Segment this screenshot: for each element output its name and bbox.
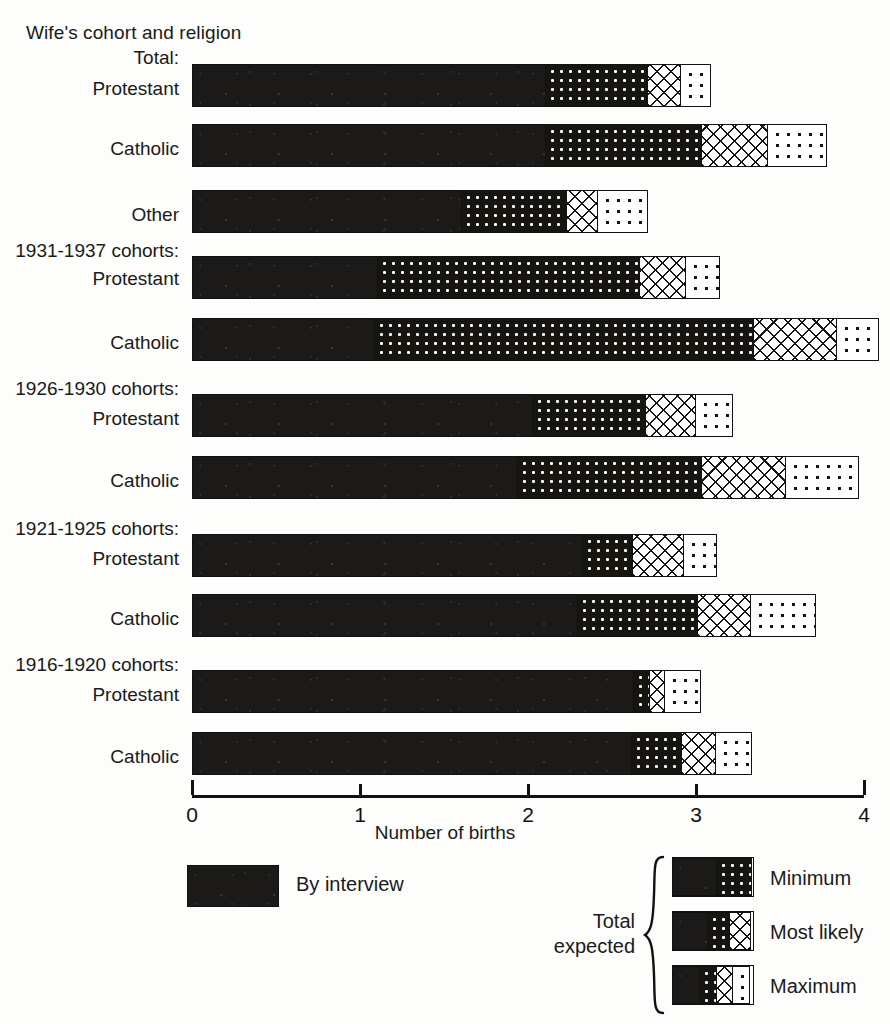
bar-segment-by-interview	[192, 534, 583, 577]
row-label-1931-1937-protestant: Protestant	[92, 268, 179, 290]
legend-label-most-likely: Most likely	[770, 921, 863, 944]
legend-seg-interview	[673, 966, 700, 1004]
bar-segment-maximum	[715, 732, 752, 775]
bar-segment-most-likely	[647, 64, 681, 107]
bar-segment-minimum	[545, 64, 647, 107]
group-caption-1921-1925: 1921-1925 cohorts:	[15, 518, 179, 540]
bar-row	[192, 594, 819, 637]
bar-segment-maximum	[680, 64, 712, 107]
row-label-1921-1925-protestant: Protestant	[92, 548, 179, 570]
x-axis-title: Number of births	[0, 822, 890, 844]
bar-segment-by-interview	[192, 394, 533, 437]
group-caption-1926-1930: 1926-1930 cohorts:	[15, 378, 179, 400]
row-label-1931-1937-catholic: Catholic	[110, 332, 179, 354]
legend-label-total-expected: Total expected	[525, 909, 635, 959]
legend-total-expected-line2: expected	[525, 934, 635, 959]
bar-row	[192, 190, 651, 233]
bar-segment-maximum	[695, 394, 734, 437]
bar-segment-maximum	[685, 256, 720, 299]
bar-row	[192, 64, 714, 107]
legend-seg-minimum	[699, 966, 717, 1004]
legend-seg-maximum	[732, 966, 750, 1004]
bar-segment-minimum	[545, 124, 701, 167]
bar-segment-maximum	[750, 594, 816, 637]
group-caption-1931-1937: 1931-1937 cohorts:	[15, 240, 179, 262]
bar-row	[192, 670, 704, 713]
bar-segment-most-likely	[681, 732, 716, 775]
legend-label-maximum: Maximum	[770, 975, 857, 998]
bar-segment-by-interview	[192, 64, 546, 107]
axis-line	[192, 795, 864, 798]
legend-seg-minimum	[707, 912, 729, 950]
bar-segment-maximum	[836, 318, 880, 361]
legend-label-minimum: Minimum	[770, 867, 851, 890]
bar-segment-minimum	[461, 190, 567, 233]
bar-segment-minimum	[633, 670, 650, 713]
axis-tick	[191, 780, 194, 795]
row-label-1926-1930-protestant: Protestant	[92, 408, 179, 430]
chart-root: Wife's cohort and religion Total: 1931-1…	[0, 0, 890, 1024]
bar-row	[192, 732, 755, 775]
x-axis: 01234	[192, 795, 864, 796]
group-caption-1916-1920: 1916-1920 cohorts:	[15, 654, 179, 676]
legend-seg-interview	[673, 858, 717, 896]
bar-segment-by-interview	[192, 124, 546, 167]
bar-segment-maximum	[785, 456, 859, 499]
legend-swatch-minimum	[672, 857, 754, 897]
legend-seg-minimum	[716, 858, 752, 896]
bar-segment-most-likely	[701, 456, 787, 499]
row-label-total-other: Other	[131, 204, 179, 226]
legend-total-expected-line1: Total	[525, 909, 635, 934]
bar-segment-most-likely	[697, 594, 751, 637]
bar-segment-minimum	[374, 318, 754, 361]
group-caption-total: Total:	[134, 47, 179, 69]
axis-tick	[863, 780, 866, 795]
bar-segment-by-interview	[192, 732, 632, 775]
bar-segment-by-interview	[192, 456, 518, 499]
bar-segment-most-likely	[701, 124, 768, 167]
row-label-total-catholic: Catholic	[110, 138, 179, 160]
legend: By interview Total expected Minimum Most…	[0, 845, 890, 1024]
axis-tick	[527, 784, 530, 795]
plot-area	[192, 0, 890, 800]
bar-segment-maximum	[597, 190, 647, 233]
bar-segment-most-likely	[566, 190, 598, 233]
bar-row	[192, 534, 720, 577]
bar-segment-by-interview	[192, 594, 578, 637]
row-label-1916-1920-catholic: Catholic	[110, 746, 179, 768]
bar-segment-most-likely	[753, 318, 837, 361]
bar-segment-by-interview	[192, 256, 378, 299]
legend-seg-most-likely	[716, 966, 734, 1004]
legend-swatch-by-interview	[187, 865, 279, 907]
bar-segment-minimum	[517, 456, 702, 499]
bar-segment-maximum	[767, 124, 827, 167]
bar-row	[192, 318, 882, 361]
bar-segment-by-interview	[192, 190, 462, 233]
bar-segment-by-interview	[192, 318, 375, 361]
bar-segment-minimum	[582, 534, 632, 577]
bar-segment-most-likely	[645, 394, 695, 437]
bar-segment-maximum	[683, 534, 717, 577]
bar-segment-minimum	[377, 256, 639, 299]
bar-segment-most-likely	[639, 256, 686, 299]
row-label-1921-1925-catholic: Catholic	[110, 608, 179, 630]
bar-segment-minimum	[577, 594, 698, 637]
bar-segment-most-likely	[632, 534, 684, 577]
bar-row	[192, 456, 862, 499]
legend-seg-most-likely	[729, 912, 751, 950]
row-label-1916-1920-protestant: Protestant	[92, 684, 179, 706]
bar-row	[192, 256, 723, 299]
legend-seg-interview	[673, 912, 708, 950]
row-label-total-protestant: Protestant	[92, 78, 179, 100]
brace-icon	[643, 855, 665, 1015]
legend-swatch-maximum	[672, 965, 754, 1005]
axis-tick	[695, 784, 698, 795]
bar-segment-maximum	[664, 670, 701, 713]
bar-segment-minimum	[532, 394, 646, 437]
legend-swatch-most-likely	[672, 911, 754, 951]
row-label-1926-1930-catholic: Catholic	[110, 470, 179, 492]
bar-segment-by-interview	[192, 670, 634, 713]
bar-segment-minimum	[631, 732, 681, 775]
bar-row	[192, 394, 736, 437]
legend-label-by-interview: By interview	[296, 873, 404, 896]
